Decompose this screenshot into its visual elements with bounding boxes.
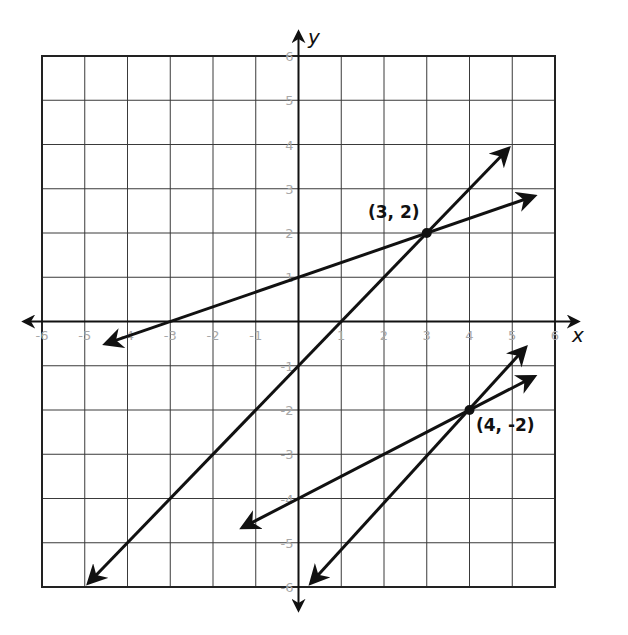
y-tick-label: 4 [285, 138, 293, 153]
point-label-3-2: (3, 2) [368, 202, 420, 222]
point-label-4-neg2: (4, -2) [476, 415, 535, 435]
y-tick-label: -2 [281, 403, 294, 418]
y-tick-label: -3 [281, 447, 294, 462]
y-tick-label: 6 [285, 49, 293, 64]
y-tick-label: -5 [281, 536, 294, 551]
x-tick-label: 5 [508, 328, 516, 343]
x-tick-label: 3 [423, 328, 431, 343]
y-tick-label: 3 [285, 182, 293, 197]
y-tick-label: 5 [285, 93, 293, 108]
x-tick-label: 1 [337, 328, 345, 343]
axes [24, 32, 578, 610]
intersection-point [465, 405, 475, 415]
coordinate-plane: -6-5-4-3-2-1123456654321-1-2-3-4-5-6 y x… [0, 0, 628, 635]
y-tick-label: 2 [285, 226, 293, 241]
y-tick-label: -6 [281, 580, 294, 595]
x-tick-label: -3 [164, 328, 177, 343]
line-4 [311, 348, 525, 583]
x-axis-label: x [571, 323, 584, 347]
x-tick-label: -5 [78, 328, 91, 343]
x-tick-label: 6 [551, 328, 559, 343]
x-tick-label: -2 [207, 328, 220, 343]
y-axis-label: y [307, 25, 321, 49]
x-tick-label: 2 [380, 328, 388, 343]
x-tick-label: -6 [36, 328, 49, 343]
x-tick-label: -1 [249, 328, 262, 343]
intersection-point [422, 228, 432, 238]
x-tick-label: 4 [465, 328, 473, 343]
